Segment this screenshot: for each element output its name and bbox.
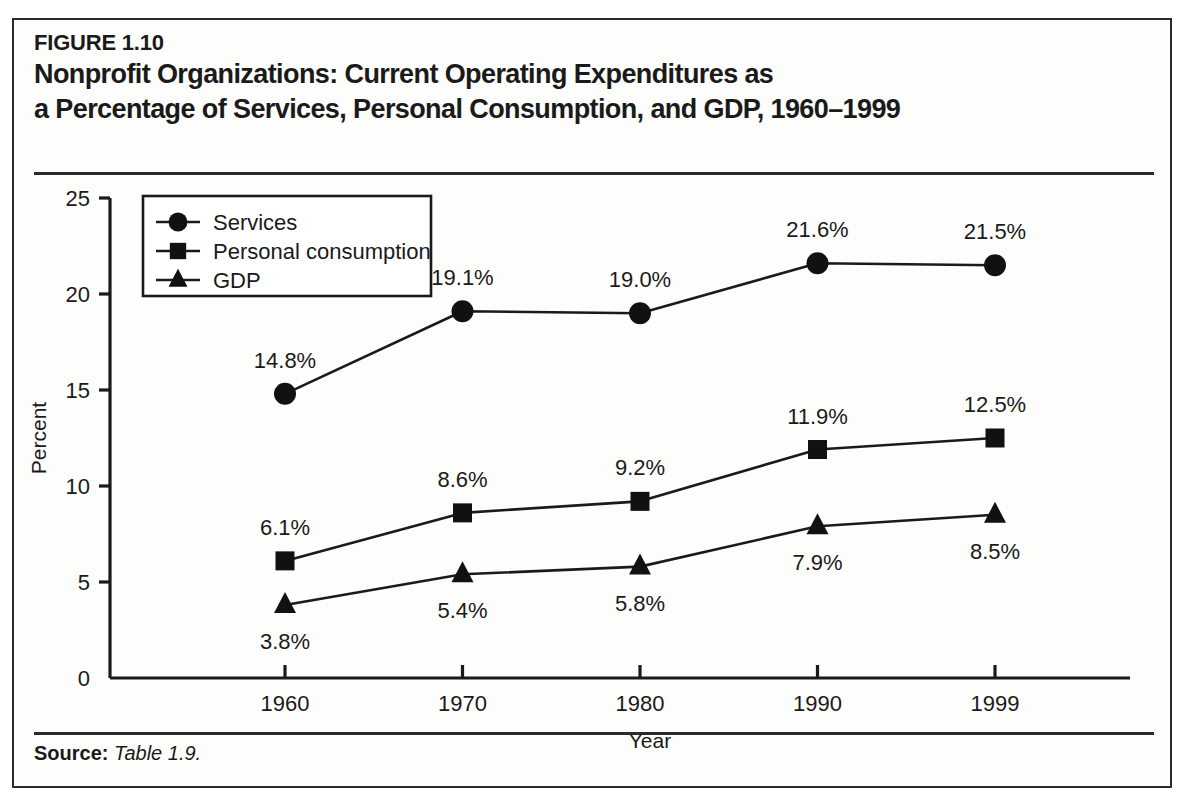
- y-axis-tick-25: 25: [66, 186, 90, 211]
- data-label-personal-consumption-1970: 8.6%: [437, 467, 487, 492]
- datapoint-marker: [984, 254, 1006, 276]
- data-label-gdp-1980: 5.8%: [615, 591, 665, 616]
- data-label-personal-consumption-1960: 6.1%: [260, 515, 310, 540]
- source-divider: [34, 732, 1154, 735]
- data-label-services-1980: 19.0%: [609, 267, 671, 292]
- datapoint-marker: [452, 300, 474, 322]
- source-value: Table 1.9.: [114, 742, 201, 764]
- legend-marker-circle: [169, 213, 188, 232]
- chart-series-group: [274, 252, 1006, 613]
- datapoint-marker: [807, 252, 829, 274]
- y-axis-tick-10: 10: [66, 474, 90, 499]
- data-label-services-1960: 14.8%: [254, 348, 316, 373]
- data-label-services-1970: 19.1%: [431, 265, 493, 290]
- legend-label-personal-consumption: Personal consumption: [213, 239, 431, 264]
- x-axis-tick-1990: 1990: [793, 691, 842, 716]
- chart-legend: ServicesPersonal consumptionGDP: [143, 196, 431, 296]
- legend-marker-square: [170, 243, 186, 259]
- data-label-personal-consumption-1980: 9.2%: [615, 455, 665, 480]
- y-axis-title: Percent: [27, 402, 50, 475]
- source-note: Source: Table 1.9.: [34, 740, 201, 766]
- datapoint-marker: [986, 429, 1005, 448]
- x-axis-tick-1960: 1960: [261, 691, 310, 716]
- legend-label-gdp: GDP: [213, 268, 261, 293]
- datapoint-marker: [453, 503, 472, 522]
- source-label: Source:: [34, 742, 108, 764]
- data-label-personal-consumption-1990: 11.9%: [787, 404, 848, 429]
- data-label-gdp-1960: 3.8%: [260, 629, 310, 654]
- data-label-gdp-1999: 8.5%: [970, 539, 1020, 564]
- line-chart: 0510152025Percent19601970198019901999Yea…: [2, 2, 1186, 812]
- data-label-personal-consumption-1999: 12.5%: [964, 392, 1026, 417]
- x-axis-tick-1970: 1970: [438, 691, 487, 716]
- data-label-gdp-1990: 7.9%: [792, 550, 842, 575]
- datapoint-marker: [276, 551, 295, 570]
- data-label-services-1999: 21.5%: [964, 219, 1026, 244]
- datapoint-marker: [274, 383, 296, 405]
- datapoint-marker: [452, 561, 474, 582]
- datapoint-marker: [808, 440, 827, 459]
- x-axis-tick-1980: 1980: [616, 691, 665, 716]
- data-label-services-1990: 21.6%: [786, 217, 848, 242]
- y-axis-tick-5: 5: [78, 570, 90, 595]
- y-axis-tick-20: 20: [66, 282, 90, 307]
- x-axis-tick-1999: 1999: [971, 691, 1020, 716]
- series-personal-consumption: [276, 429, 1005, 571]
- datapoint-marker: [629, 302, 651, 324]
- datapoint-marker: [807, 513, 829, 534]
- y-axis-tick-15: 15: [66, 378, 90, 403]
- datapoint-marker: [984, 502, 1006, 523]
- y-axis-tick-0: 0: [78, 666, 90, 691]
- chart-plot-area: 0510152025Percent19601970198019901999Yea…: [14, 20, 1174, 790]
- datapoint-marker: [631, 492, 650, 511]
- legend-label-services: Services: [213, 210, 297, 235]
- data-label-gdp-1970: 5.4%: [437, 598, 487, 623]
- figure-card: FIGURE 1.10 Nonprofit Organizations: Cur…: [12, 18, 1172, 788]
